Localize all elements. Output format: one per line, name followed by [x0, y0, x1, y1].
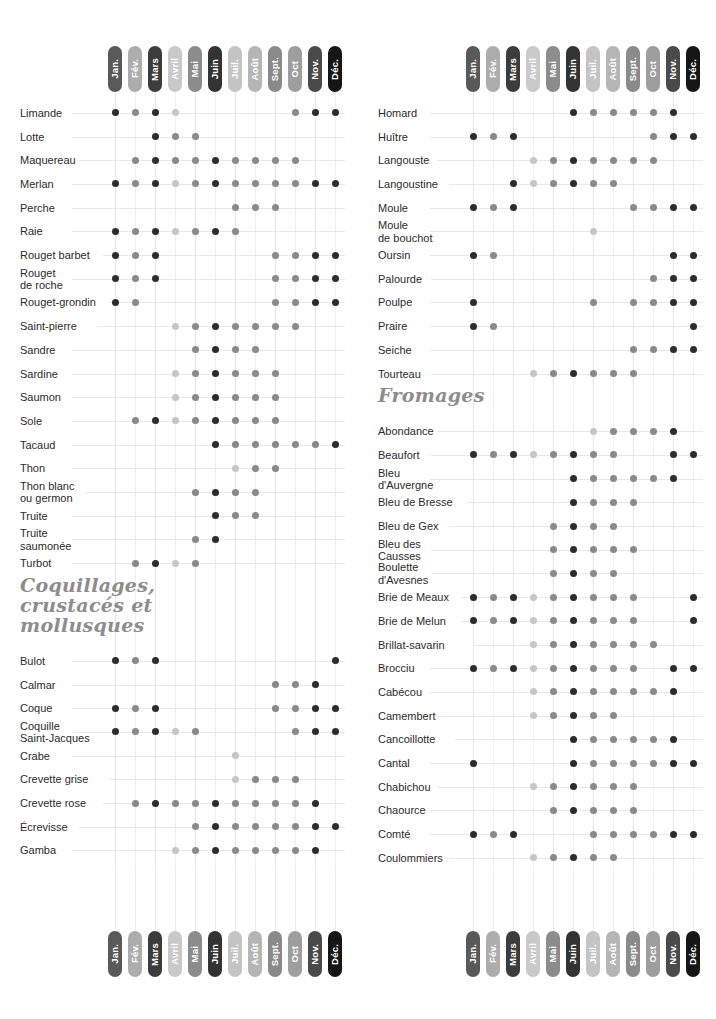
calendar-row: Coque — [0, 696, 358, 720]
season-dot-mai — [550, 523, 557, 530]
row-rule — [72, 756, 345, 757]
season-dot-mars — [152, 157, 159, 164]
month-pill-jan[interactable]: Jan. — [108, 46, 122, 92]
month-pill-bottom-jan[interactable]: Jan. — [466, 931, 480, 977]
row-label: Bleu de Bresse — [378, 496, 453, 508]
month-pill-juil[interactable]: Juil. — [586, 46, 600, 92]
season-dot-mai — [192, 370, 199, 377]
calendar-row: Beaufort — [358, 443, 716, 467]
month-pill-bottom-oct[interactable]: Oct — [646, 931, 660, 977]
calendar-row: Homard — [358, 101, 716, 125]
month-pill-bottom-juil[interactable]: Juil. — [586, 931, 600, 977]
month-pill-bottom-avril[interactable]: Avril — [168, 931, 182, 977]
row-rule — [430, 692, 703, 693]
month-pill-dec[interactable]: Déc. — [686, 46, 700, 92]
row-label: Cancoillotte — [378, 733, 435, 745]
season-dot-sept — [272, 370, 279, 377]
month-pill-mai[interactable]: Mai — [546, 46, 560, 92]
month-pill-bottom-juin[interactable]: Juin — [566, 931, 580, 977]
season-dot-juin — [212, 512, 219, 519]
month-pill-bottom-dec[interactable]: Déc. — [328, 931, 342, 977]
month-pill-bottom-juil[interactable]: Juil. — [228, 931, 242, 977]
month-pill-bottom-mai[interactable]: Mai — [188, 931, 202, 977]
month-pill-sept[interactable]: Sept. — [268, 46, 282, 92]
month-pill-jan[interactable]: Jan. — [466, 46, 480, 92]
season-dot-mai — [550, 641, 557, 648]
month-pill-nov[interactable]: Nov. — [308, 46, 322, 92]
month-pill-bottom-sept[interactable]: Sept. — [626, 931, 640, 977]
season-dot-juin — [570, 451, 577, 458]
season-dot-dec — [332, 657, 339, 664]
season-dot-fev — [490, 133, 497, 140]
month-pill-bottom-mars[interactable]: Mars — [148, 931, 162, 977]
season-dot-avril — [172, 133, 179, 140]
month-pill-aout[interactable]: Août — [606, 46, 620, 92]
month-pill-bottom-sept[interactable]: Sept. — [268, 931, 282, 977]
month-pill-avril[interactable]: Avril — [526, 46, 540, 92]
month-pill-bottom-mars[interactable]: Mars — [506, 931, 520, 977]
month-pill-bottom-mai[interactable]: Mai — [546, 931, 560, 977]
month-pill-bottom-jan[interactable]: Jan. — [108, 931, 122, 977]
row-label: Chabichou — [378, 781, 431, 793]
month-pill-nov[interactable]: Nov. — [666, 46, 680, 92]
row-label: Crevette grise — [20, 773, 88, 785]
season-dot-aout — [252, 157, 259, 164]
month-pill-bottom-nov[interactable]: Nov. — [666, 931, 680, 977]
month-pill-aout[interactable]: Août — [248, 46, 262, 92]
month-pill-label: Sept. — [268, 57, 282, 81]
month-pill-fev[interactable]: Fév. — [486, 46, 500, 92]
month-pill-bottom-juin[interactable]: Juin — [208, 931, 222, 977]
season-dot-sept — [272, 705, 279, 712]
calendar-row: Rouget de roche — [0, 267, 358, 291]
row-label: Rouget-grondin — [20, 296, 96, 308]
month-pill-label: Mai — [546, 61, 560, 77]
season-dot-juil — [590, 807, 597, 814]
season-dot-juin — [212, 417, 219, 424]
month-pill-bottom-oct[interactable]: Oct — [288, 931, 302, 977]
season-dot-sept — [630, 157, 637, 164]
season-dot-mars — [152, 180, 159, 187]
month-pill-fev[interactable]: Fév. — [128, 46, 142, 92]
season-dot-fev — [132, 157, 139, 164]
season-dot-fev — [490, 252, 497, 259]
month-pill-bottom-aout[interactable]: Août — [248, 931, 262, 977]
month-pill-label: Août — [606, 943, 620, 965]
month-pill-bottom-dec[interactable]: Déc. — [686, 931, 700, 977]
month-pill-oct[interactable]: Oct — [288, 46, 302, 92]
season-dot-juin — [570, 570, 577, 577]
grid-line-lower-mai — [195, 868, 196, 931]
month-pill-oct[interactable]: Oct — [646, 46, 660, 92]
season-dot-nov — [312, 800, 319, 807]
month-pill-avril[interactable]: Avril — [168, 46, 182, 92]
month-pill-label: Fév. — [128, 944, 142, 963]
season-dot-dec — [690, 323, 697, 330]
month-pill-bottom-aout[interactable]: Août — [606, 931, 620, 977]
calendar-row: Truite saumonée — [0, 528, 358, 552]
month-pill-mai[interactable]: Mai — [188, 46, 202, 92]
row-label: Merlan — [20, 178, 54, 190]
month-pill-bottom-fev[interactable]: Fév. — [486, 931, 500, 977]
month-pill-sept[interactable]: Sept. — [626, 46, 640, 92]
season-dot-avril — [172, 800, 179, 807]
month-pill-bottom-avril[interactable]: Avril — [526, 931, 540, 977]
season-dot-aout — [252, 417, 259, 424]
season-dot-aout — [252, 776, 259, 783]
season-dot-mai — [192, 133, 199, 140]
season-dot-juil — [232, 157, 239, 164]
month-pill-mars[interactable]: Mars — [506, 46, 520, 92]
row-label: Crabe — [20, 749, 50, 761]
season-dot-mars — [152, 133, 159, 140]
month-pill-mars[interactable]: Mars — [148, 46, 162, 92]
season-dot-aout — [252, 441, 259, 448]
row-label: Sardine — [20, 367, 58, 379]
season-dot-jan — [470, 133, 477, 140]
month-pill-bottom-fev[interactable]: Fév. — [128, 931, 142, 977]
season-dot-aout — [610, 157, 617, 164]
month-pill-bottom-nov[interactable]: Nov. — [308, 931, 322, 977]
season-dot-dec — [690, 617, 697, 624]
month-pill-juin[interactable]: Juin — [566, 46, 580, 92]
month-pill-dec[interactable]: Déc. — [328, 46, 342, 92]
month-pill-juil[interactable]: Juil. — [228, 46, 242, 92]
season-dot-aout — [252, 180, 259, 187]
month-pill-juin[interactable]: Juin — [208, 46, 222, 92]
